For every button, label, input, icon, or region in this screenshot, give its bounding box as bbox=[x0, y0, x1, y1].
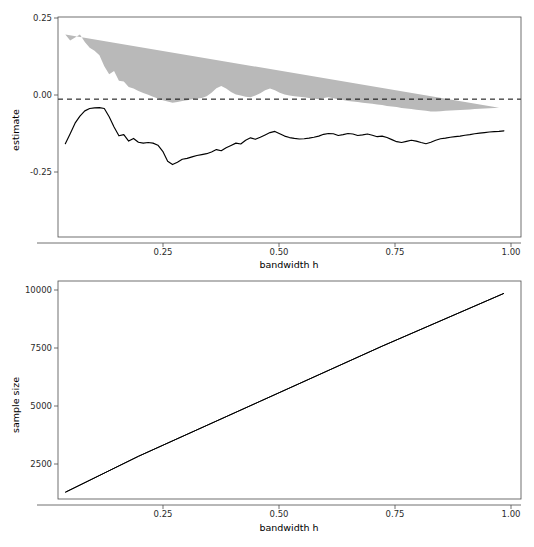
sample-size-line-main bbox=[65, 293, 504, 492]
x-tick-label-n-2: 0.75 bbox=[386, 509, 405, 519]
y-tick-label-2: -0.25 bbox=[30, 167, 52, 177]
y-tick-label-0: 0.25 bbox=[33, 13, 52, 23]
x-tick-label-0: 0.25 bbox=[154, 247, 173, 257]
y-tick-label-n-1: 7500 bbox=[30, 343, 52, 353]
estimate-chart-svg: estimate 0.25 0.00 -0.25 bbox=[0, 0, 534, 272]
chart-estimate-vs-bandwidth: estimate 0.25 0.00 -0.25 bbox=[0, 0, 534, 272]
sample-size-line-group bbox=[65, 293, 504, 492]
confidence-band bbox=[65, 35, 499, 112]
y-tick-label-n-3: 2500 bbox=[30, 459, 52, 469]
x-tick-label-n-0: 0.25 bbox=[154, 509, 173, 519]
x-tick-label-n-3: 1.00 bbox=[502, 509, 521, 519]
estimate-line-group bbox=[65, 108, 504, 165]
y-axis-title-estimate: estimate bbox=[10, 109, 21, 151]
x-tick-label-3: 1.00 bbox=[502, 247, 521, 257]
estimate-line bbox=[65, 108, 504, 165]
y-tick-label-1: 0.00 bbox=[33, 90, 52, 100]
sample-size-chart-svg: sample size 10000 7500 5000 2500 bbox=[0, 275, 534, 547]
x-tick-label-n-1: 0.50 bbox=[270, 509, 289, 519]
x-tick-label-1: 0.50 bbox=[270, 247, 289, 257]
x-tick-label-2: 0.75 bbox=[386, 247, 405, 257]
x-axis-title-estimate: bandwidth h bbox=[259, 259, 318, 270]
y-tick-label-n-0: 10000 bbox=[25, 285, 52, 295]
y-axis-title-samplesize: sample size bbox=[10, 377, 21, 433]
sample-size-line-main-group bbox=[65, 293, 504, 492]
x-axis-title-samplesize: bandwidth h bbox=[259, 522, 318, 533]
plot-panel-border-bottom bbox=[58, 281, 521, 499]
y-tick-label-n-2: 5000 bbox=[30, 401, 52, 411]
chart-sample-size-vs-bandwidth: sample size 10000 7500 5000 2500 bbox=[0, 275, 534, 547]
figure-page: estimate 0.25 0.00 -0.25 bbox=[0, 0, 534, 547]
sample-size-line bbox=[65, 293, 504, 492]
confidence-band-group bbox=[65, 35, 499, 112]
